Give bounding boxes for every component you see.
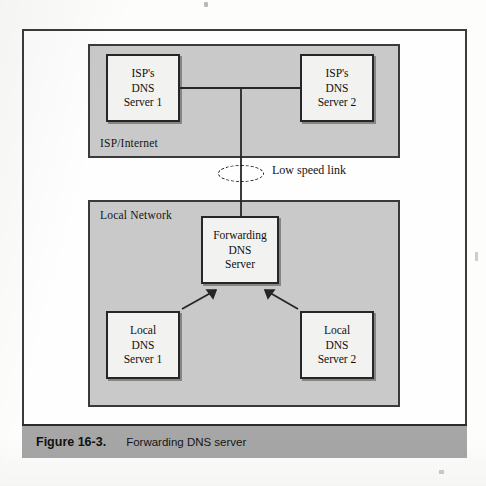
node-isp-dns-server-2-line3: Server 2 (318, 95, 357, 110)
node-isp-dns-server-1-line1: ISP's (131, 66, 154, 81)
node-isp-dns-server-2-line2: DNS (325, 81, 348, 96)
node-isp-dns-server-1: ISP's DNS Server 1 (106, 54, 180, 122)
node-isp-dns-server-2: ISP's DNS Server 2 (300, 54, 374, 122)
figure-caption-bar: Figure 16-3. Forwarding DNS server (22, 424, 467, 458)
low-speed-link-ellipse-icon (218, 165, 264, 182)
figure-caption-text: Forwarding DNS server (126, 436, 246, 448)
node-isp-dns-server-1-line3: Server 1 (124, 95, 163, 110)
node-local-dns-server-1: Local DNS Server 1 (106, 311, 180, 379)
node-isp-dns-server-2-line1: ISP's (325, 66, 348, 81)
node-local-dns-server-2-line1: Local (324, 323, 350, 338)
node-local-dns-server-2-line2: DNS (325, 338, 348, 353)
node-local-dns-server-2-line3: Server 2 (318, 352, 357, 367)
node-local-dns-server-1-line1: Local (130, 323, 156, 338)
zone-local-label: Local Network (100, 209, 172, 221)
figure-caption-number: Figure 16-3. (36, 435, 106, 449)
figure-page: ISP/Internet Local Network ISP's DNS Ser… (0, 0, 486, 486)
node-forwarding-dns-server-line3: Server (225, 257, 255, 272)
node-local-dns-server-2: Local DNS Server 2 (300, 311, 374, 379)
scan-speck (439, 470, 444, 474)
node-local-dns-server-1-line2: DNS (131, 338, 154, 353)
scan-speck (475, 252, 478, 261)
node-isp-dns-server-1-line2: DNS (131, 81, 154, 96)
node-forwarding-dns-server-line1: Forwarding (213, 228, 267, 243)
scan-speck (204, 2, 208, 7)
node-forwarding-dns-server: Forwarding DNS Server (201, 216, 279, 284)
node-forwarding-dns-server-line2: DNS (228, 243, 251, 258)
low-speed-link-label: Low speed link (272, 163, 346, 178)
zone-isp-label: ISP/Internet (100, 137, 158, 149)
node-local-dns-server-1-line3: Server 1 (124, 352, 163, 367)
